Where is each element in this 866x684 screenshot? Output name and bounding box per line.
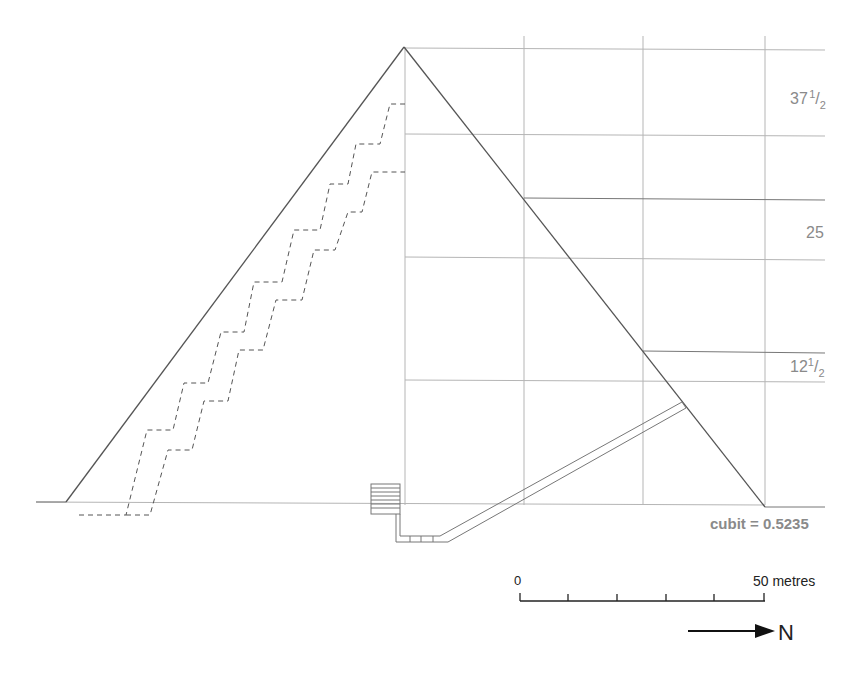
grid-lines	[36, 36, 825, 505]
pyramid-outline	[66, 47, 765, 507]
north-arrow-icon	[688, 624, 775, 638]
lower-chamber	[371, 484, 448, 542]
scale-bar	[520, 593, 765, 601]
descending-passage	[440, 402, 686, 542]
pyramid-section-drawing	[0, 0, 866, 684]
height-label-37-5: 37 1/2	[790, 88, 826, 111]
height-label-12-5: 121/2	[790, 356, 825, 379]
cubit-note: cubit = 0.5235	[710, 515, 809, 532]
scale-end-label: 50 metres	[753, 573, 815, 589]
height-label-25: 25	[806, 224, 824, 242]
scale-start-label: 0	[514, 573, 521, 588]
inner-steps-dashed	[79, 104, 405, 515]
north-label: N	[778, 620, 794, 646]
